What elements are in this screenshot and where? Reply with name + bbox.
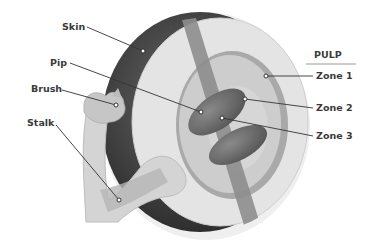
label-brush: Brush [31, 84, 62, 94]
label-pip: Pip [50, 58, 67, 68]
label-zone-1: Zone 1 [316, 71, 353, 81]
label-pulp-heading: PULP [314, 50, 342, 60]
grape-anatomy-diagram [0, 0, 372, 245]
label-zone-2: Zone 2 [316, 103, 353, 113]
label-zone-3: Zone 3 [316, 131, 353, 141]
label-stalk: Stalk [27, 118, 54, 128]
label-skin: Skin [62, 22, 85, 32]
